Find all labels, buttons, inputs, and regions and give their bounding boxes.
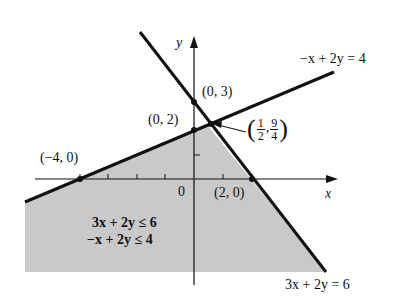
point-0-3 [191,99,197,105]
point-2-0 [249,176,255,182]
intersection-pointer [218,125,246,132]
point-label-neg4-0: (−4, 0) [40,151,78,165]
y-axis-arrow-icon [190,36,198,48]
x-axis-label: x [325,187,331,201]
y-axis-label: y [176,36,182,50]
origin-label: 0 [178,185,185,199]
point-label-2-0: (2, 0) [214,186,244,200]
point-label-0-3: (0, 3) [202,85,232,99]
line-label-3x-plus-2y: 3x + 2y = 6 [285,278,350,292]
inequality-2: −x + 2y ≤ 4 [87,233,153,247]
x-axis-arrow-icon [326,175,338,183]
inequality-1: 3x + 2y ≤ 6 [92,216,157,230]
feasible-region [25,126,326,272]
point-label-intersection: (12,94) [247,116,288,142]
point-label-0-2: (0, 2) [148,113,178,127]
point-0-2 [191,127,197,133]
line-label-neg-x-plus-2y: −x + 2y = 4 [300,52,366,66]
point-neg4-0 [77,176,83,182]
